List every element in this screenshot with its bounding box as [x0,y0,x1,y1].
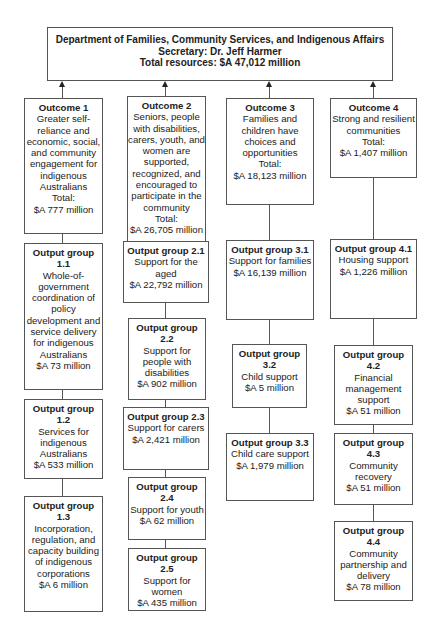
output-group-heading: Output group 4.3 [335,437,412,460]
outcome-description: Strong and resilient communities [331,113,416,136]
outcome-amount: $A 777 million [25,204,102,215]
output-group-description: Housing support [331,254,416,265]
outcome-description: Greater self-reliance and economic, soci… [25,113,102,192]
outcome-total-label: Total: [25,192,102,203]
connector-line [165,400,166,407]
output-group-2-4-box: Output group 2.4 Support for youth $A 62… [128,477,206,540]
output-group-3-3-box: Output group 3.3 Child care support $A 1… [226,433,314,501]
connector-line [165,86,166,96]
output-group-amount: $A 1,979 million [227,460,313,471]
department-total: Total resources: $A 47,012 million [48,57,392,69]
output-group-amount: $A 51 million [335,405,412,416]
connector-line [373,425,374,433]
outcome-amount: $A 26,705 million [128,224,205,235]
output-group-heading: Output group 2.2 [129,322,205,345]
output-group-1-1-box: Output group 1.1 Whole-of-government coo… [24,243,103,390]
output-group-amount: $A 6 million [25,579,102,590]
connector-line [62,390,63,399]
output-group-heading: Output group 2.1 [124,245,208,256]
connector-line [165,540,166,548]
connector-line [165,470,166,477]
outcome-3-box: Outcome 3 Families and children have cho… [226,98,314,205]
output-group-amount: $A 62 million [129,515,205,526]
connector-line [373,178,374,239]
connector-line [62,234,63,243]
output-group-description: Services for indigenous Australians [25,426,102,460]
output-group-description: Support for people with disabilities [129,345,205,379]
output-group-heading: Output group 3.2 [233,348,306,371]
output-group-heading: Output group 3.1 [227,244,313,255]
arrow-up-icon [266,81,272,87]
outcome-total-label: Total: [331,136,416,147]
output-group-amount: $A 22,792 million [124,279,208,290]
connector-line [269,86,270,98]
output-group-amount: $A 902 million [129,378,205,389]
output-group-description: Support for youth [129,504,205,515]
arrow-up-icon [59,81,65,87]
outcome-2-box: Outcome 2 Seniors, people with disabilit… [127,96,206,248]
connector-line [269,320,270,344]
outcome-1-box: Outcome 1 Greater self-reliance and econ… [24,98,103,234]
output-group-heading: Output group 2.4 [129,481,205,504]
outcome-heading: Outcome 2 [128,100,205,111]
connector-line [269,205,270,240]
connector-line [165,303,166,318]
output-group-description: Community partnership and delivery [335,548,412,582]
connector-line [373,319,374,345]
output-group-amount: $A 2,421 million [124,434,208,445]
output-group-description: Incorporation, regulation, and capacity … [25,523,102,579]
arrow-up-icon [162,81,168,87]
output-group-amount: $A 5 million [233,382,306,393]
output-group-description: Whole-of-government coordination of poli… [25,270,102,360]
arrow-up-icon [370,81,376,87]
connector-line [269,408,270,433]
outcome-total-label: Total: [128,213,205,224]
department-title: Department of Families, Community Servic… [48,34,392,46]
output-group-heading: Output group 2.5 [129,552,205,575]
output-group-description: Child support [233,371,306,382]
output-group-3-2-box: Output group 3.2 Child support $A 5 mill… [232,344,307,408]
output-group-2-5-box: Output group 2.5 Support for women $A 43… [128,548,206,611]
output-group-amount: $A 533 million [25,459,102,470]
output-group-4-2-box: Output group 4.2 Financial management su… [334,345,413,425]
connector-line [62,479,63,496]
output-group-heading: Output group 1.1 [25,247,102,270]
output-group-heading: Output group 4.1 [331,243,416,254]
outcome-description: Families and children have choices and o… [227,113,313,158]
outcome-description: Seniors, people with disabilities, carer… [128,111,205,213]
output-group-4-3-box: Output group 4.3 Community recovery $A 5… [334,433,413,505]
connector-line [373,505,374,521]
output-group-description: Support for families [227,255,313,266]
output-group-heading: Output group 4.4 [335,525,412,548]
output-group-heading: Output group 3.3 [227,437,313,448]
output-group-amount: $A 1,226 million [331,266,416,277]
output-group-description: Support for carers [124,422,208,433]
output-group-1-2-box: Output group 1.2 Services for indigenous… [24,399,103,479]
output-group-2-3-box: Output group 2.3 Support for carers $A 2… [123,407,209,470]
output-group-heading: Output group 4.2 [335,349,412,372]
outcome-total-label: Total: [227,158,313,169]
output-group-2-1-box: Output group 2.1 Support for the aged $A… [123,241,209,303]
connector-line [373,86,374,98]
output-group-4-4-box: Output group 4.4 Community partnership a… [334,521,413,601]
output-group-amount: $A 73 million [25,360,102,371]
output-group-1-3-box: Output group 1.3 Incorporation, regulati… [24,496,103,612]
outcome-amount: $A 18,123 million [227,170,313,181]
department-box: Department of Families, Community Servic… [47,27,393,81]
output-group-description: Support for the aged [124,256,208,279]
output-group-amount: $A 435 million [129,597,205,608]
outcome-heading: Outcome 3 [227,102,313,113]
output-group-4-1-box: Output group 4.1 Housing support $A 1,22… [330,239,417,319]
output-group-description: Financial management support [335,372,412,406]
output-group-heading: Output group 1.3 [25,500,102,523]
outcome-amount: $A 1,407 million [331,147,416,158]
output-group-3-1-box: Output group 3.1 Support for families $A… [226,240,314,320]
output-group-heading: Output group 1.2 [25,403,102,426]
outcome-4-box: Outcome 4 Strong and resilient communiti… [330,98,417,178]
department-secretary: Secretary: Dr. Jeff Harmer [48,46,392,58]
output-group-amount: $A 78 million [335,581,412,592]
output-group-2-2-box: Output group 2.2 Support for people with… [128,318,206,400]
output-group-amount: $A 51 million [335,482,412,493]
output-group-amount: $A 16,139 million [227,267,313,278]
output-group-description: Community recovery [335,460,412,483]
